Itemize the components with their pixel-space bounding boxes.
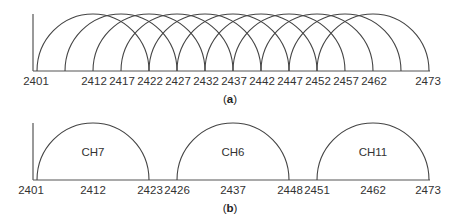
tick-label: 2412 [81,75,107,87]
arc-2 [65,14,177,71]
tick-label: 2452 [305,75,331,87]
tick-label: 2473 [415,184,441,196]
tick-label: 2423 [137,184,163,196]
arc-3 [93,14,205,71]
tick-label: 2422 [137,75,163,87]
tick-label: 2451 [304,184,330,196]
arc-7 [205,14,317,71]
arc-9 [261,14,373,71]
panel-a-caption: (a) [223,93,237,105]
tick-labels-a: 2401 2412 2417 2422 2427 2432 2437 2442 … [23,75,441,87]
tick-label: 2437 [220,184,246,196]
tick-label: 2462 [360,184,386,196]
channel-label: CH6 [221,146,244,158]
tick-label: 2457 [333,75,359,87]
arc-5 [149,14,261,71]
tick-label: 2437 [221,75,247,87]
tick-label: 2448 [277,184,303,196]
channel-ch6: CH6 [177,123,289,180]
tick-label: 2401 [23,75,49,87]
tick-label: 2427 [165,75,191,87]
tick-label: 2473 [415,75,441,87]
channel-label: CH11 [359,146,388,158]
arc-8 [233,14,345,71]
channel-ch7: CH7 [37,123,149,180]
overlapping-arcs [37,14,429,71]
tick-label: 2426 [164,184,190,196]
channel-diagram: 2401 2412 2417 2422 2427 2432 2437 2442 … [0,0,461,220]
panel-b: CH7 CH6 CH11 2401 2412 2423 2426 2437 24… [18,123,441,214]
tick-label: 2462 [361,75,387,87]
tick-label: 2447 [277,75,303,87]
channel-label: CH7 [81,146,104,158]
arc-4 [121,14,233,71]
arc-10 [289,14,401,71]
panel-a: 2401 2412 2417 2422 2427 2432 2437 2442 … [23,14,441,105]
channel-ch11: CH11 [317,123,429,180]
tick-label: 2417 [109,75,135,87]
arc-11 [317,14,429,71]
arc-6 [177,14,289,71]
tick-label: 2412 [80,184,106,196]
tick-label: 2401 [18,184,44,196]
panel-b-caption: (b) [223,202,238,214]
arc-1 [37,14,149,71]
tick-labels-b: 2401 2412 2423 2426 2437 2448 2451 2462 … [18,184,441,196]
tick-label: 2442 [249,75,275,87]
tick-label: 2432 [193,75,219,87]
